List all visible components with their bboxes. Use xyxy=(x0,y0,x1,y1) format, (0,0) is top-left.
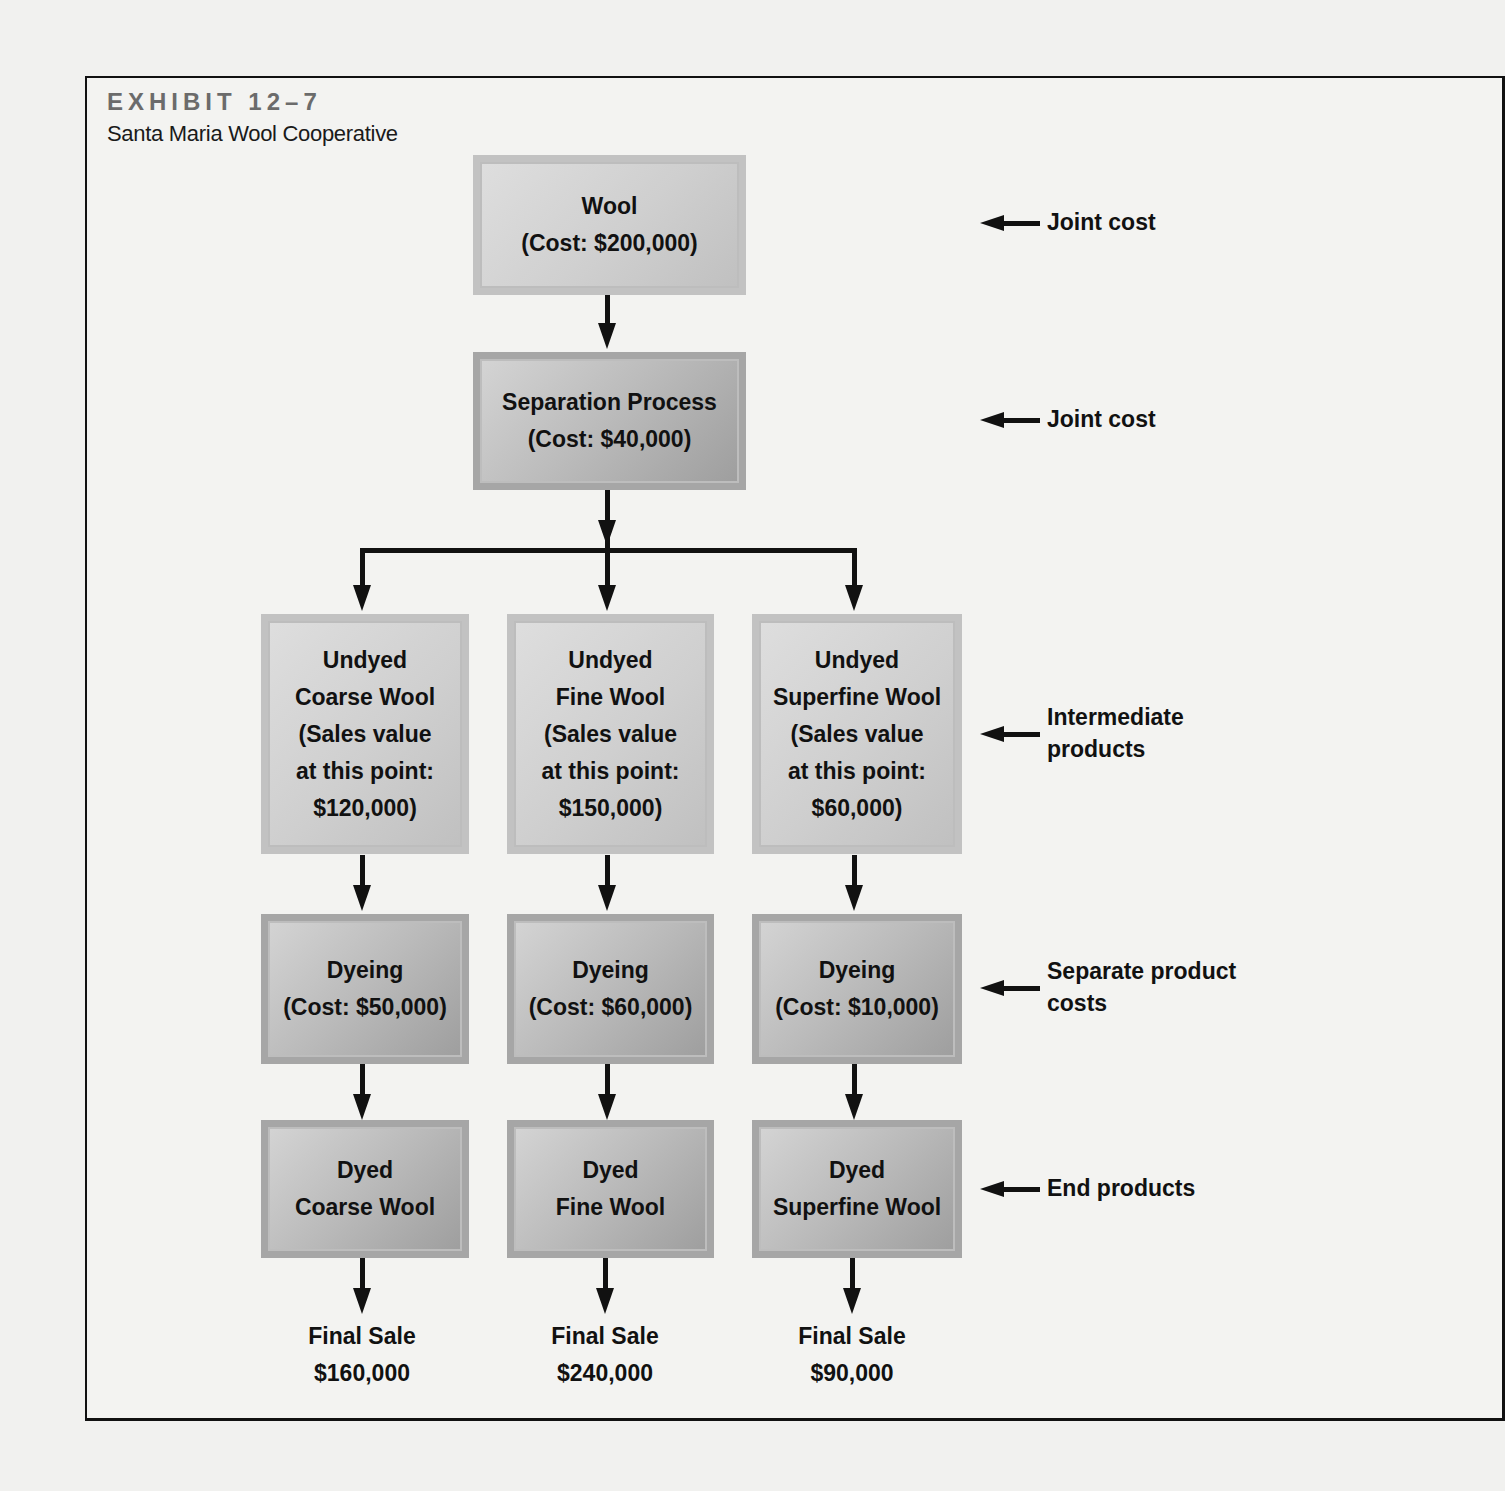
node-text: (Cost: $50,000) xyxy=(283,989,447,1026)
connector xyxy=(360,548,365,588)
connector xyxy=(850,1258,855,1290)
node-text: Dyeing xyxy=(572,952,649,989)
node-text: (Sales value xyxy=(299,716,432,753)
arrow-down-icon xyxy=(598,520,616,546)
connector xyxy=(852,548,857,588)
node-text: at this point: xyxy=(542,753,680,790)
annotation-text: products xyxy=(1047,733,1184,765)
connector xyxy=(605,1064,610,1096)
exhibit-title: Santa Maria Wool Cooperative xyxy=(107,121,398,147)
final-sale-coarse: Final Sale $160,000 xyxy=(272,1318,452,1392)
connector xyxy=(603,1258,608,1290)
arrow-down-icon xyxy=(843,1288,861,1314)
separate-product-costs-label: Separate product costs xyxy=(1047,955,1236,1019)
final-sale-label: Final Sale xyxy=(272,1318,452,1355)
arrow-down-icon xyxy=(353,1288,371,1314)
undyed-superfine-wool-box: Undyed Superfine Wool (Sales value at th… xyxy=(752,614,962,854)
intermediate-products-label: Intermediate products xyxy=(1047,701,1184,765)
separation-label: Separation Process xyxy=(502,384,717,421)
final-sale-label: Final Sale xyxy=(515,1318,695,1355)
final-sale-value: $160,000 xyxy=(272,1355,452,1392)
arrow-down-icon xyxy=(353,885,371,911)
connector xyxy=(605,548,610,588)
node-text: Coarse Wool xyxy=(295,1189,435,1226)
node-text: $150,000) xyxy=(559,790,663,827)
arrow-down-icon xyxy=(353,1094,371,1120)
node-text: Dyed xyxy=(829,1152,885,1189)
node-text: (Sales value xyxy=(544,716,677,753)
node-text: (Sales value xyxy=(791,716,924,753)
arrow-down-icon xyxy=(353,585,371,611)
arrow-down-icon xyxy=(598,885,616,911)
connector xyxy=(852,855,857,887)
separation-process-box: Separation Process (Cost: $40,000) xyxy=(473,352,746,490)
connector xyxy=(605,295,610,325)
final-sale-superfine: Final Sale $90,000 xyxy=(762,1318,942,1392)
dyeing-coarse-box: Dyeing (Cost: $50,000) xyxy=(261,914,469,1064)
node-text: at this point: xyxy=(296,753,434,790)
node-text: Undyed xyxy=(323,642,407,679)
node-text: Dyeing xyxy=(819,952,896,989)
final-sale-value: $240,000 xyxy=(515,1355,695,1392)
node-text: Superfine Wool xyxy=(773,679,941,716)
connector xyxy=(360,1064,365,1096)
dyeing-superfine-box: Dyeing (Cost: $10,000) xyxy=(752,914,962,1064)
arrow-down-icon xyxy=(845,885,863,911)
exhibit-label: EXHIBIT 12–7 xyxy=(107,88,322,116)
node-text: (Cost: $60,000) xyxy=(529,989,693,1026)
node-text: Dyeing xyxy=(327,952,404,989)
arrow-down-icon xyxy=(596,1288,614,1314)
arrow-down-icon xyxy=(845,585,863,611)
joint-cost-label: Joint cost xyxy=(1047,206,1156,238)
node-text: Coarse Wool xyxy=(295,679,435,716)
background-bleed-text xyxy=(520,0,1460,76)
dyed-fine-wool-box: Dyed Fine Wool xyxy=(507,1120,714,1258)
arrow-down-icon xyxy=(598,323,616,349)
dyed-superfine-wool-box: Dyed Superfine Wool xyxy=(752,1120,962,1258)
annotation-text: costs xyxy=(1047,987,1236,1019)
connector xyxy=(360,855,365,887)
undyed-fine-wool-box: Undyed Fine Wool (Sales value at this po… xyxy=(507,614,714,854)
node-text: Fine Wool xyxy=(556,1189,665,1226)
annotation-text: Intermediate xyxy=(1047,701,1184,733)
dyed-coarse-wool-box: Dyed Coarse Wool xyxy=(261,1120,469,1258)
wool-label: Wool xyxy=(582,188,638,225)
wool-cost: (Cost: $200,000) xyxy=(521,225,697,262)
final-sale-value: $90,000 xyxy=(762,1355,942,1392)
wool-box: Wool (Cost: $200,000) xyxy=(473,155,746,295)
node-text: Superfine Wool xyxy=(773,1189,941,1226)
connector xyxy=(605,855,610,887)
node-text: $60,000) xyxy=(812,790,903,827)
node-text: Undyed xyxy=(815,642,899,679)
node-text: $120,000) xyxy=(313,790,417,827)
end-products-label: End products xyxy=(1047,1172,1195,1204)
connector xyxy=(360,1258,365,1290)
node-text: (Cost: $10,000) xyxy=(775,989,939,1026)
connector xyxy=(852,1064,857,1096)
node-text: Dyed xyxy=(337,1152,393,1189)
arrow-down-icon xyxy=(598,1094,616,1120)
undyed-coarse-wool-box: Undyed Coarse Wool (Sales value at this … xyxy=(261,614,469,854)
annotation-text: Separate product xyxy=(1047,955,1236,987)
node-text: Dyed xyxy=(582,1152,638,1189)
separation-cost: (Cost: $40,000) xyxy=(528,421,692,458)
arrow-down-icon xyxy=(845,1094,863,1120)
joint-cost-label: Joint cost xyxy=(1047,403,1156,435)
node-text: at this point: xyxy=(788,753,926,790)
arrow-down-icon xyxy=(598,585,616,611)
dyeing-fine-box: Dyeing (Cost: $60,000) xyxy=(507,914,714,1064)
final-sale-fine: Final Sale $240,000 xyxy=(515,1318,695,1392)
final-sale-label: Final Sale xyxy=(762,1318,942,1355)
node-text: Fine Wool xyxy=(556,679,665,716)
node-text: Undyed xyxy=(568,642,652,679)
